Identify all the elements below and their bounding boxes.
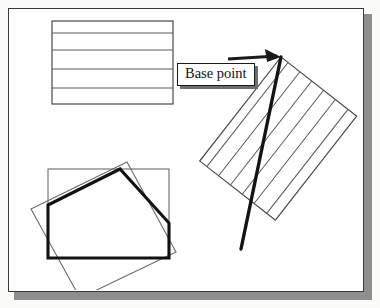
bottom-left-composition <box>31 162 176 290</box>
bold-boundary-polygon <box>48 169 169 258</box>
base-point-callout: Base point <box>177 63 255 86</box>
horizontal-hatched-rectangle <box>52 21 173 104</box>
axis-aligned-outline-rectangle <box>48 169 169 258</box>
figure-root: the right side to create the Transpose b… <box>0 0 380 308</box>
callout-leader-arrow <box>228 49 281 62</box>
rotated-outline-rectangle <box>31 162 176 290</box>
figure-plate: Base point <box>8 8 364 292</box>
technical-drawing <box>9 9 362 290</box>
